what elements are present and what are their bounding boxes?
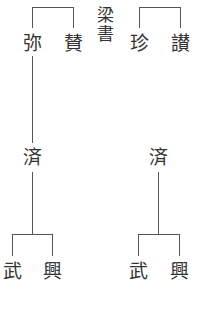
descent-line-ji-right xyxy=(158,172,159,235)
person-ji-right: 済 xyxy=(147,146,169,168)
person-wu-right: 武 xyxy=(127,260,149,282)
bracket-leg-zan-right xyxy=(180,7,181,28)
children-bracket-right xyxy=(138,234,180,235)
source-char-1: 梁 xyxy=(94,6,116,25)
person-xing-right: 興 xyxy=(168,260,190,282)
bracket-leg-zan-left xyxy=(73,7,74,28)
bracket-leg-xing-right xyxy=(179,234,180,256)
bracket-leg-wu-left xyxy=(12,234,13,256)
sibling-bracket-top-left xyxy=(32,7,74,8)
bracket-leg-mi xyxy=(32,7,33,28)
bracket-leg-zhen xyxy=(139,7,140,28)
person-wu-left: 武 xyxy=(1,260,23,282)
person-zhen: 珍 xyxy=(128,32,150,54)
bracket-leg-wu-right xyxy=(138,234,139,256)
children-bracket-left xyxy=(12,234,53,235)
person-zan-left: 賛 xyxy=(62,32,84,54)
descent-line-mi-to-ji xyxy=(32,56,33,143)
person-xing-left: 興 xyxy=(41,260,63,282)
descent-line-ji-left xyxy=(32,172,33,235)
person-mi: 弥 xyxy=(21,32,43,54)
sibling-bracket-top-right xyxy=(139,7,181,8)
source-char-2: 書 xyxy=(94,25,116,44)
bracket-leg-xing-left xyxy=(52,234,53,256)
source-label: 梁 書 xyxy=(94,6,116,44)
person-zan-right: 讃 xyxy=(169,32,191,54)
person-ji-left: 済 xyxy=(21,146,43,168)
genealogy-diagram: 梁 書 弥 賛 珍 讃 済 済 武 興 武 興 xyxy=(0,0,200,330)
